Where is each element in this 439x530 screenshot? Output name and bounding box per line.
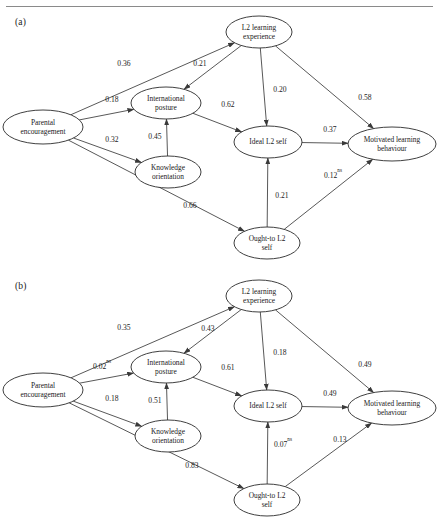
node-label-line2: experience bbox=[243, 32, 276, 41]
edge-label-l2exp-to-motivated: 0.58 bbox=[358, 93, 371, 102]
node-l2exp-panel-a[interactable]: L2 learningexperience bbox=[226, 16, 292, 48]
node-label-line2: self bbox=[262, 243, 273, 252]
edge-l2exp-to-ideal bbox=[260, 312, 266, 390]
edge-label-ought-to-motivated: 0.12ns bbox=[324, 167, 342, 180]
path-diagram-canvas: ParentalencouragementInternationalpostur… bbox=[0, 0, 439, 530]
nodes-layer: ParentalencouragementInternationalpostur… bbox=[3, 16, 436, 516]
edge-parental-to-intl bbox=[79, 109, 133, 120]
node-label-line1: Ideal L2 self bbox=[249, 401, 287, 410]
node-intl-panel-b[interactable]: Internationalposture bbox=[131, 351, 201, 383]
node-motivated-panel-a[interactable]: Motivated learningbehaviour bbox=[348, 127, 436, 161]
edge-label-intl-to-ideal: 0.61 bbox=[221, 363, 234, 372]
edge-label-ought-to-ideal: 0.21 bbox=[275, 191, 288, 200]
edge-ideal-to-motivated bbox=[302, 407, 348, 408]
edge-label-parental-to-ought: 0.83 bbox=[185, 461, 198, 470]
edge-label-intl-to-ideal: 0.62 bbox=[221, 100, 234, 109]
edge-knowledge-to-intl bbox=[166, 119, 167, 156]
edge-label-l2exp-to-ideal: 0.20 bbox=[273, 85, 286, 94]
node-label-line2: behaviour bbox=[377, 408, 407, 417]
edge-labels-layer: 0.360.180.320.660.210.200.580.450.620.37… bbox=[93, 59, 372, 470]
node-label-line1: L2 learning bbox=[242, 287, 277, 296]
edge-label-parental-to-knowledge: 0.18 bbox=[105, 394, 118, 403]
edge-parental-to-knowledge bbox=[73, 401, 141, 426]
edge-label-parental-to-l2exp: 0.35 bbox=[117, 323, 130, 332]
edge-ideal-to-motivated bbox=[302, 143, 348, 144]
edge-ought-to-ideal bbox=[267, 158, 268, 227]
edge-intl-to-ideal bbox=[193, 377, 242, 396]
edge-label-ought-to-motivated: 0.13 bbox=[333, 435, 346, 444]
node-label-line1: Knowledge bbox=[151, 163, 186, 172]
node-label-line2: encouragement bbox=[20, 390, 66, 399]
edge-ought-to-motivated bbox=[285, 423, 371, 487]
edge-label-parental-to-ought: 0.66 bbox=[183, 201, 196, 210]
edge-knowledge-to-intl bbox=[166, 383, 167, 420]
edge-label-ideal-to-motivated: 0.37 bbox=[323, 125, 336, 134]
node-ought-panel-a[interactable]: Ought-to L2self bbox=[234, 227, 300, 259]
node-intl-panel-a[interactable]: Internationalposture bbox=[131, 87, 201, 119]
edge-l2exp-to-ideal bbox=[260, 48, 266, 126]
edge-label-parental-to-intl: 0.18 bbox=[105, 95, 118, 104]
node-label-line2: posture bbox=[155, 367, 177, 376]
node-knowledge-panel-a[interactable]: Knowledgeorientation bbox=[135, 156, 201, 188]
node-label-line1: Motivated learning bbox=[364, 399, 421, 408]
edge-label-parental-to-intl: 0.02ns bbox=[93, 358, 111, 371]
node-label-line1: Ought-to L2 bbox=[249, 234, 286, 243]
node-motivated-panel-b[interactable]: Motivated learningbehaviour bbox=[348, 391, 436, 425]
node-ought-panel-b[interactable]: Ought-to L2self bbox=[234, 484, 300, 516]
node-label-line2: self bbox=[262, 500, 273, 509]
node-label-line1: L2 learning bbox=[242, 23, 277, 32]
node-label-line2: behaviour bbox=[377, 144, 407, 153]
node-label-line1: International bbox=[147, 94, 185, 103]
node-parental-panel-a[interactable]: Parentalencouragement bbox=[3, 110, 83, 144]
edge-ought-to-motivated bbox=[284, 159, 372, 229]
edge-intl-to-ideal bbox=[193, 113, 242, 132]
edge-l2exp-to-motivated bbox=[275, 46, 373, 129]
node-label-line2: orientation bbox=[152, 172, 184, 181]
node-knowledge-panel-b[interactable]: Knowledgeorientation bbox=[135, 420, 201, 452]
node-label-line1: Parental bbox=[31, 118, 55, 127]
edge-l2exp-to-motivated bbox=[275, 310, 373, 393]
edge-label-l2exp-to-ideal: 0.18 bbox=[273, 348, 286, 357]
edge-ought-to-ideal bbox=[267, 422, 268, 484]
edge-label-ought-to-ideal: 0.07ns bbox=[274, 436, 292, 449]
edge-label-l2exp-to-intl: 0.43 bbox=[201, 324, 214, 333]
edge-label-knowledge-to-intl: 0.45 bbox=[148, 132, 161, 141]
node-label-line1: Ought-to L2 bbox=[249, 491, 286, 500]
node-label-line2: orientation bbox=[152, 436, 184, 445]
node-ideal-panel-b[interactable]: Ideal L2 self bbox=[234, 390, 302, 422]
edge-label-parental-to-l2exp: 0.36 bbox=[117, 59, 130, 68]
node-l2exp-panel-b[interactable]: L2 learningexperience bbox=[226, 280, 292, 312]
edge-label-ideal-to-motivated: 0.49 bbox=[323, 389, 336, 398]
node-label-line2: encouragement bbox=[20, 127, 66, 136]
node-ideal-panel-a[interactable]: Ideal L2 self bbox=[234, 126, 302, 158]
node-label-line2: posture bbox=[155, 103, 177, 112]
edge-label-knowledge-to-intl: 0.51 bbox=[148, 396, 161, 405]
edges-layer bbox=[68, 43, 373, 489]
node-label-line1: Ideal L2 self bbox=[249, 137, 287, 146]
node-label-line1: Motivated learning bbox=[364, 135, 421, 144]
node-label-line1: International bbox=[147, 358, 185, 367]
figure-root: (a) (b) ParentalencouragementInternation… bbox=[0, 0, 439, 530]
edge-label-l2exp-to-motivated: 0.49 bbox=[358, 360, 371, 369]
node-label-line1: Parental bbox=[31, 381, 55, 390]
node-label-line1: Knowledge bbox=[151, 427, 186, 436]
edge-parental-to-intl bbox=[80, 373, 134, 383]
edge-label-l2exp-to-intl: 0.21 bbox=[193, 59, 206, 68]
edge-label-parental-to-knowledge: 0.32 bbox=[105, 135, 118, 144]
node-label-line2: experience bbox=[243, 296, 276, 305]
node-parental-panel-b[interactable]: Parentalencouragement bbox=[3, 373, 83, 407]
